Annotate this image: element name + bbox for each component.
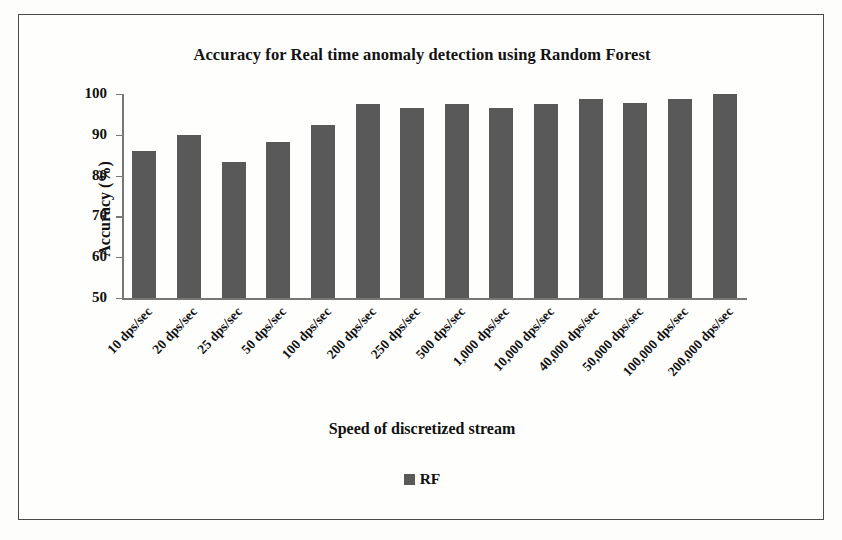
- x-label-slot: 50 dps/sec: [256, 300, 301, 420]
- bar-1: [177, 135, 201, 298]
- bar-slot: [435, 94, 480, 298]
- bar-4: [311, 125, 335, 298]
- x-tick-label-0: 10 dps/sec: [105, 304, 156, 357]
- x-label-slot: 200,000 dps/sec: [702, 300, 747, 420]
- bar-8: [489, 108, 513, 298]
- bar-slot: [211, 94, 256, 298]
- y-tick-label-70: 70: [92, 208, 107, 225]
- chart-legend: RF: [19, 470, 825, 488]
- bar-0: [132, 151, 156, 298]
- bar-slot: [122, 94, 167, 298]
- bar-slot: [568, 94, 613, 298]
- y-tick-label-80: 80: [92, 167, 107, 184]
- bar-series-rf: [122, 94, 747, 298]
- bar-slot: [256, 94, 301, 298]
- figure-canvas: Accuracy for Real time anomaly detection…: [0, 0, 842, 540]
- bar-slot: [524, 94, 569, 298]
- bar-11: [623, 103, 647, 298]
- chart-title: Accuracy for Real time anomaly detection…: [19, 45, 825, 65]
- bar-slot: [301, 94, 346, 298]
- bar-2: [222, 162, 246, 298]
- bar-5: [356, 104, 380, 298]
- legend-swatch-rf: [404, 474, 415, 485]
- bar-6: [400, 108, 424, 298]
- bar-13: [713, 94, 737, 298]
- figure-frame: Accuracy for Real time anomaly detection…: [18, 14, 824, 520]
- bar-3: [266, 142, 290, 298]
- x-label-slot: 10 dps/sec: [122, 300, 167, 420]
- bar-slot: [390, 94, 435, 298]
- y-tick-label-100: 100: [85, 85, 108, 102]
- x-label-slot: 250 dps/sec: [390, 300, 435, 420]
- bar-7: [445, 104, 469, 298]
- bar-slot: [613, 94, 658, 298]
- bar-12: [668, 99, 692, 298]
- x-label-slot: 20 dps/sec: [167, 300, 212, 420]
- bar-slot: [479, 94, 524, 298]
- bar-slot: [167, 94, 212, 298]
- bar-slot: [345, 94, 390, 298]
- plot-area: 1009080706050: [122, 94, 747, 298]
- y-tick-50: 50: [116, 298, 122, 299]
- bar-10: [579, 99, 603, 298]
- y-tick-label-90: 90: [92, 126, 107, 143]
- bar-slot: [658, 94, 703, 298]
- bar-9: [534, 104, 558, 298]
- y-tick-label-60: 60: [92, 248, 107, 265]
- x-label-slot: 25 dps/sec: [211, 300, 256, 420]
- x-label-slot: 100 dps/sec: [301, 300, 346, 420]
- legend-label-rf: RF: [420, 470, 441, 488]
- bar-slot: [702, 94, 747, 298]
- x-label-slot: 200 dps/sec: [345, 300, 390, 420]
- x-axis-title: Speed of discretized stream: [19, 420, 825, 438]
- y-tick-label-50: 50: [92, 289, 107, 306]
- x-axis-tick-labels: 10 dps/sec20 dps/sec25 dps/sec50 dps/sec…: [122, 300, 747, 420]
